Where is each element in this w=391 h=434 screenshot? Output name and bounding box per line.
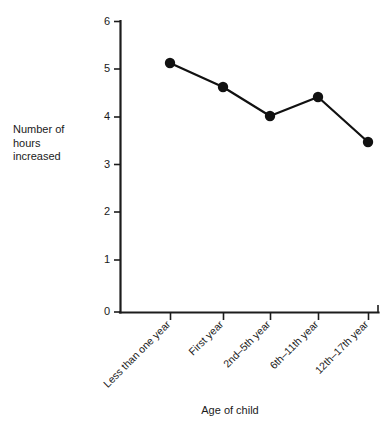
y-tick-label-5: 5 (104, 62, 110, 74)
x-axis-title: Age of child (201, 404, 258, 416)
y-tick-label-3: 3 (104, 158, 110, 170)
y-tick-label-4: 4 (104, 110, 110, 122)
series-markers (165, 58, 373, 147)
chart-canvas: 6 5 4 3 2 1 0 Less tha (0, 0, 391, 434)
y-tick-label-0: 0 (104, 305, 110, 317)
data-point-first-year (218, 82, 228, 92)
y-tick-label-1: 1 (104, 253, 110, 265)
x-tick-label-12th-17th-year: 12th–17th year (312, 318, 370, 376)
data-point-12th-17th-year (363, 137, 373, 147)
y-axis-tick-labels: 6 5 4 3 2 1 0 (104, 15, 110, 317)
line-chart: Number of hours increased 6 5 4 3 2 1 0 (0, 0, 391, 434)
x-tick-label-6th-11th-year: 6th–11th year (267, 318, 321, 372)
data-point-6th-11th-year (313, 92, 323, 102)
x-tick-label-first-year: First year (186, 318, 226, 358)
series-line-number-of-hours-increased (170, 63, 368, 142)
data-point-less-than-one-year (165, 58, 175, 68)
x-axis-tick-labels: Less than one year First year 2nd–5th ye… (101, 318, 371, 390)
y-tick-label-6: 6 (104, 15, 110, 27)
x-tick-label-less-than-one-year: Less than one year (101, 318, 173, 390)
y-tick-label-2: 2 (104, 205, 110, 217)
data-point-2nd-5th-year (265, 111, 275, 121)
x-tick-label-2nd-5th-year: 2nd–5th year (221, 318, 273, 370)
